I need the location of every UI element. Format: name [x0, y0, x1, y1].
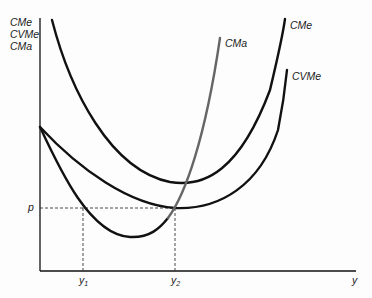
cme-label: CMe — [290, 19, 312, 31]
cma-label: CMa — [225, 37, 247, 49]
tick-y1: y1 — [79, 274, 88, 290]
cme-curve — [52, 19, 285, 183]
y-axis-label: CMe CVMe CMa — [10, 16, 39, 52]
tick-y2: y2 — [171, 274, 180, 290]
y-axis-label-cma: CMa — [10, 40, 39, 52]
tick-y2-sub: 2 — [176, 280, 180, 287]
cost-curves-chart: CMe CVMe CMa CMe CMa CVMe p y1 y2 y — [0, 0, 372, 298]
price-label: p — [28, 201, 34, 213]
y-axis-label-cvme: CVMe — [10, 28, 39, 40]
tick-y1-sub: 1 — [84, 280, 88, 287]
chart-canvas — [0, 0, 372, 298]
x-axis-label: y — [352, 274, 357, 286]
y-axis-label-cme: CMe — [10, 16, 39, 28]
cma-curve-right — [168, 38, 220, 218]
cvme-label: CVMe — [292, 70, 321, 82]
